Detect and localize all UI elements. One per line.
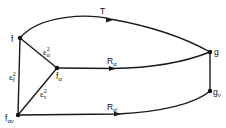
label-f-alpha: fα (56, 71, 62, 82)
node-f-alpha (55, 66, 59, 70)
edge-eps-nu (18, 68, 57, 115)
label-g-nu: gν (213, 87, 221, 98)
node-g-nu (208, 89, 212, 93)
label-eps-nu: ε2ν (40, 88, 47, 100)
node-f (18, 36, 22, 40)
label-g: g (214, 47, 219, 57)
label-R-alpha: Rα (107, 56, 117, 67)
label-eps-f: ε2f (9, 71, 16, 83)
label-T: T (100, 6, 105, 16)
graph-diagram: f fα fαν g gν T Rα Rα' ε2α ε2f ε2ν (0, 0, 226, 128)
edge-eps-alpha (20, 38, 57, 68)
edge-R-alpha (57, 52, 210, 69)
label-eps-alpha: ε2α (43, 46, 51, 58)
label-f-alpha-nu: fαν (5, 113, 14, 124)
label-R-alpha-prime: Rα' (107, 102, 118, 113)
node-f-alpha-nu (16, 113, 20, 117)
label-f: f (11, 34, 14, 44)
node-g (208, 50, 212, 54)
edge-eps-f (18, 38, 20, 115)
